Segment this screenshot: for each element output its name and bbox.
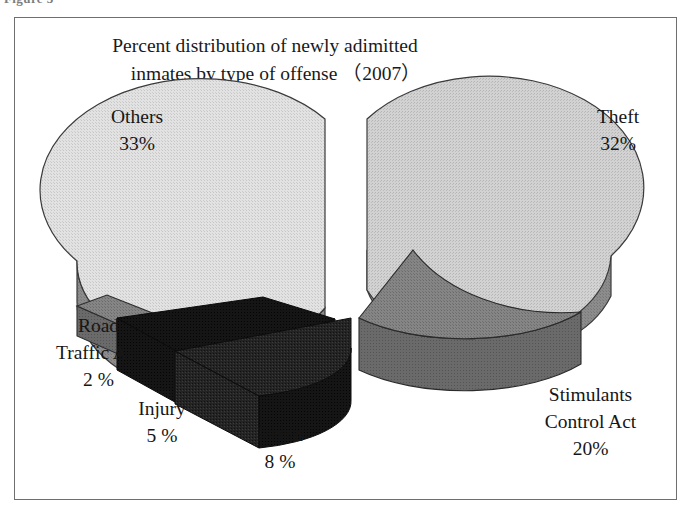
figure-caption-strip: Figure 3 [0,0,695,14]
slice-label-others-value: 33% [77,131,197,158]
slice-label-injury: Injury 5 % [107,396,217,450]
slice-label-stimulants-control-act: Stimulants Control Act 20% [503,382,678,463]
slice-label-others: Others 33% [77,104,197,158]
slice-label-road-line-1: Road [21,313,176,340]
slice-label-road-traffic-act: Road Traffic Act 2 % [21,313,176,394]
slice-label-fraud-name: Fraud [225,422,335,449]
slice-label-injury-name: Injury [107,396,217,423]
figure-caption-text: Figure 3 [4,0,54,7]
slice-label-others-name: Others [77,104,197,131]
slice-label-road-value: 2 % [21,367,176,394]
slice-label-stimulants-line-2: Control Act [503,409,678,436]
slice-label-theft-value: 32% [563,131,673,158]
figure-frame: Percent distribution of newly adimitted … [14,17,677,500]
slice-label-theft-name: Theft [563,104,673,131]
slice-label-injury-value: 5 % [107,423,217,450]
slice-label-fraud: Fraud 8 % [225,422,335,476]
slice-label-stimulants-line-1: Stimulants [503,382,678,409]
slice-label-road-line-2: Traffic Act [21,340,176,367]
slice-label-stimulants-value: 20% [503,436,678,463]
slice-label-fraud-value: 8 % [225,449,335,476]
slice-label-theft: Theft 32% [563,104,673,158]
